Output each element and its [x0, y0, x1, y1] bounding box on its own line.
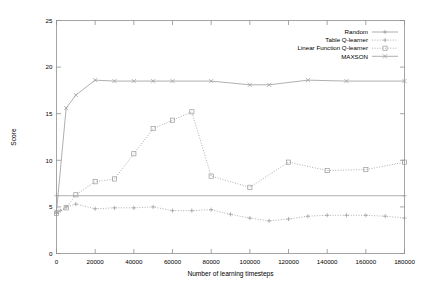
legend-label-random: Random: [345, 28, 368, 35]
y-tick-label: 20: [46, 63, 53, 70]
legend-label-maxson: MAXSON: [341, 53, 368, 60]
x-tick-label: 80000: [203, 258, 221, 265]
y-tick-label: 5: [49, 203, 53, 210]
series-linear-function-q-learner: [54, 110, 406, 216]
series-random: [54, 194, 406, 198]
y-tick-label: 15: [46, 110, 53, 117]
x-tick-label: 100000: [240, 258, 261, 265]
x-tick-label: 140000: [317, 258, 338, 265]
series-maxson: [54, 78, 406, 214]
x-tick-label: 0: [55, 258, 59, 265]
chart-figure: 0510152025020000400006000080000100000120…: [0, 0, 425, 289]
y-tick-label: 10: [46, 157, 53, 164]
y-axis-title: Score: [10, 128, 17, 146]
x-tick-label: 60000: [164, 258, 182, 265]
x-tick-label: 120000: [278, 258, 299, 265]
legend-label-table-q-learner: Table Q-learner: [325, 36, 368, 43]
legend-sample-cross-icon: [372, 54, 398, 58]
series-table-q-learner: [54, 202, 406, 223]
x-tick-label: 20000: [87, 258, 105, 265]
y-tick-label: 25: [46, 17, 53, 24]
x-tick-label: 40000: [125, 258, 143, 265]
legend-sample-plus-icon: [372, 30, 398, 34]
x-tick-label: 160000: [356, 258, 377, 265]
y-tick-label: 0: [49, 250, 53, 257]
legend-sample-square-icon: [372, 46, 398, 50]
score-vs-timesteps-line-chart: 0510152025020000400006000080000100000120…: [0, 0, 425, 289]
x-tick-label: 180000: [394, 258, 415, 265]
legend-sample-plus-icon: [372, 38, 398, 42]
x-axis-title: Number of learning timesteps: [187, 270, 274, 278]
legend-label-linear-function-q-learner: Linear Function Q-learner: [297, 44, 368, 51]
